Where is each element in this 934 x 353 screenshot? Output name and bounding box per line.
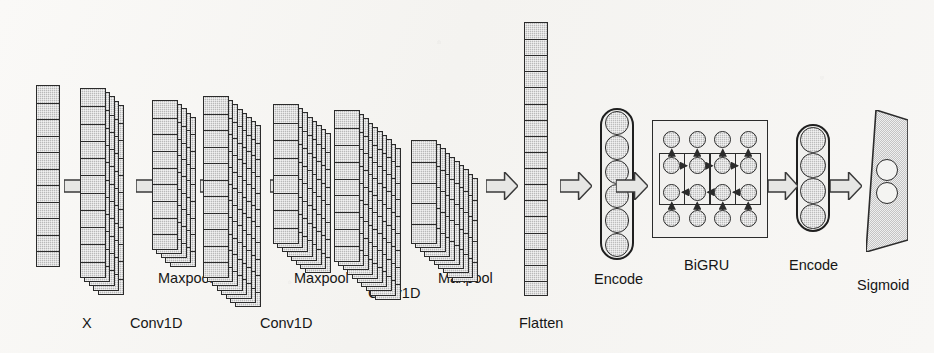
cell-divider	[412, 203, 436, 204]
block-arrow-icon	[616, 172, 648, 200]
layer-pool1	[152, 100, 196, 267]
cell-divider	[153, 151, 177, 152]
cell-divider	[525, 168, 547, 169]
encode-node	[800, 204, 826, 230]
layer-pool3	[411, 140, 478, 282]
bigru-node	[689, 131, 706, 148]
cell-divider	[37, 218, 59, 219]
cell-divider	[525, 152, 547, 153]
cell-divider	[335, 212, 359, 213]
label-encode1: Encode	[594, 272, 643, 287]
cell-divider	[204, 196, 228, 197]
cell-divider	[153, 234, 177, 235]
cell-divider	[525, 281, 547, 282]
bigru-node	[663, 131, 680, 148]
arrow-pool3-to-flatten	[486, 172, 518, 200]
bigru-node	[689, 210, 706, 227]
label-encode2: Encode	[789, 258, 838, 273]
cell-divider	[525, 87, 547, 88]
cell-divider	[525, 249, 547, 250]
layer-sigmoid	[866, 110, 908, 252]
encode-node	[800, 127, 826, 153]
encode-node	[605, 135, 629, 159]
bigru-node	[689, 157, 706, 174]
cell-divider	[204, 229, 228, 230]
layer-sheet	[334, 110, 360, 262]
cell-divider	[37, 202, 59, 203]
bigru-node	[740, 184, 757, 201]
cell-divider	[37, 185, 59, 186]
cell-divider	[81, 210, 105, 211]
cell-divider	[525, 233, 547, 234]
layer-sheet	[203, 96, 229, 278]
layer-sheet	[524, 22, 548, 296]
sigmoid-node	[876, 182, 898, 204]
layer-flatten	[524, 22, 548, 296]
cell-divider	[274, 123, 298, 124]
cell-divider	[37, 152, 59, 153]
cell-divider	[153, 184, 177, 185]
layer-conv1	[80, 88, 124, 295]
cell-divider	[81, 124, 105, 125]
cell-divider	[525, 136, 547, 137]
cell-divider	[525, 104, 547, 105]
cell-divider	[81, 158, 105, 159]
cell-divider	[274, 158, 298, 159]
cell-divider	[204, 262, 228, 263]
cell-divider	[81, 244, 105, 245]
cell-divider	[274, 210, 298, 211]
cell-divider	[81, 262, 105, 263]
encode-node	[605, 233, 629, 257]
cell-divider	[204, 147, 228, 148]
sigmoid-shape	[866, 110, 908, 252]
sigmoid-node	[876, 159, 898, 181]
layer-sheet	[80, 88, 106, 278]
cell-divider	[525, 216, 547, 217]
cell-divider	[204, 246, 228, 247]
label-conv2: Conv1D	[260, 316, 312, 331]
bigru-node	[740, 210, 757, 227]
cell-divider	[153, 201, 177, 202]
bigru-node	[663, 184, 680, 201]
bigru-node	[689, 184, 706, 201]
cell-divider	[335, 162, 359, 163]
cell-divider	[153, 118, 177, 119]
cell-divider	[204, 130, 228, 131]
cell-divider	[335, 179, 359, 180]
encode-node	[605, 208, 629, 232]
cell-divider	[525, 120, 547, 121]
layer-sheet	[273, 104, 299, 244]
layer-encode2	[796, 124, 830, 232]
cell-divider	[335, 195, 359, 196]
encode-node	[800, 178, 826, 204]
cell-divider	[412, 183, 436, 184]
bigru-node	[740, 131, 757, 148]
cell-divider	[153, 134, 177, 135]
cell-divider	[274, 175, 298, 176]
layer-bigru	[652, 120, 768, 238]
cell-divider	[525, 39, 547, 40]
bigru-node	[740, 157, 757, 174]
cell-divider	[274, 140, 298, 141]
cell-divider	[335, 145, 359, 146]
cell-divider	[81, 106, 105, 107]
bigru-node	[714, 131, 731, 148]
label-flatten: Flatten	[519, 316, 563, 331]
label-sigmoid: Sigmoid	[857, 278, 909, 293]
cell-divider	[37, 103, 59, 104]
label-input: X	[82, 316, 92, 331]
cell-divider	[153, 168, 177, 169]
layer-sheet	[411, 140, 437, 244]
arrow-encode2-to-sigmoid	[830, 172, 862, 200]
architecture-diagram: XConv1DMaxpoolConv1DMaxpoolConv1DMaxpool…	[0, 0, 934, 353]
bigru-node	[714, 184, 731, 201]
label-conv1: Conv1D	[130, 316, 182, 331]
cell-divider	[81, 175, 105, 176]
cell-divider	[81, 227, 105, 228]
cell-divider	[525, 200, 547, 201]
layer-input	[36, 85, 60, 267]
cell-divider	[525, 71, 547, 72]
layer-sheet	[152, 100, 178, 250]
cell-divider	[37, 136, 59, 137]
block-arrow-icon	[830, 172, 862, 200]
